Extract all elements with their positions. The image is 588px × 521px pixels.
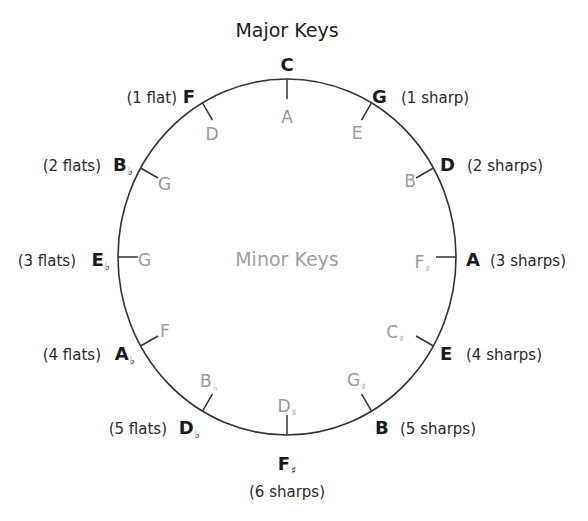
major-key-f-letter: F — [183, 86, 195, 107]
minor-key-f: F — [160, 321, 170, 341]
accidental-count-e-flat: (3 flats) — [18, 252, 76, 270]
tick-b-flat — [141, 168, 158, 178]
accidental-count-f-sharp: (6 sharps) — [249, 483, 325, 501]
major-key-a-flat-accidental: ♭ — [130, 354, 135, 367]
major-key-f-sharp: F♯ — [278, 453, 297, 477]
minor-key-a: A — [281, 107, 293, 127]
minor-keys-label: Minor Keys — [235, 248, 339, 270]
major-key-e-flat-accidental: ♭ — [105, 260, 110, 273]
minor-key-d-letter: D — [205, 124, 218, 144]
key-labels-group: CAG(1 sharp)ED(2 sharps)BA(3 sharps)F♯E(… — [18, 54, 566, 501]
accidental-count-b: (5 sharps) — [400, 420, 476, 438]
minor-key-d-sharp-letter: D — [278, 396, 291, 416]
accidental-count-g: (1 sharp) — [401, 89, 469, 107]
major-key-d: D — [440, 154, 455, 175]
minor-key-g-sharp-letter: G — [347, 370, 360, 390]
major-key-e-flat: E♭ — [92, 249, 111, 273]
major-key-a-letter: A — [466, 249, 480, 270]
major-key-d-flat: D♭ — [179, 417, 200, 441]
minor-key-d: D — [205, 124, 218, 144]
minor-key-b-flat-letter: B — [200, 371, 212, 391]
major-key-c-letter: C — [280, 54, 293, 75]
tick-e — [416, 336, 433, 346]
accidental-count-f: (1 flat) — [126, 89, 177, 107]
major-key-c: C — [280, 54, 293, 75]
major-key-f-sharp-letter: F — [278, 453, 290, 474]
minor-key-g-letter: G — [158, 174, 171, 194]
minor-key-c-sharp-accidental: ♯ — [399, 333, 404, 344]
minor-key-f-sharp-letter: F — [414, 252, 424, 272]
tick-b — [362, 394, 372, 411]
tick-f — [203, 103, 213, 120]
major-key-a-flat-letter: A — [115, 343, 129, 364]
major-key-a: A — [466, 249, 480, 270]
minor-key-e-letter: E — [352, 123, 363, 143]
tick-a-flat — [141, 336, 158, 346]
minor-key-c-sharp-letter: C — [386, 322, 398, 342]
major-key-e-letter: E — [440, 343, 452, 364]
major-key-d-flat-letter: D — [179, 417, 194, 438]
major-key-b-flat-letter: B — [113, 154, 127, 175]
major-key-f: F — [183, 86, 195, 107]
minor-key-b-flat: B♭ — [200, 371, 218, 393]
minor-key-g-sharp: G♯ — [347, 370, 366, 392]
minor-key-e: E — [352, 123, 363, 143]
accidental-count-d: (2 sharps) — [467, 157, 543, 175]
diagram-title: Major Keys — [235, 19, 338, 41]
minor-key-f-sharp: F♯ — [414, 252, 430, 274]
minor-key-g-sharp-accidental: ♯ — [361, 381, 366, 392]
minor-key-b-letter: B — [404, 171, 416, 191]
minor-key-d-sharp-accidental: ♯ — [292, 407, 297, 418]
tick-d — [416, 168, 433, 178]
major-key-d-letter: D — [440, 154, 455, 175]
minor-key-g: G — [138, 250, 151, 270]
major-key-b-flat-accidental: ♭ — [128, 165, 133, 178]
minor-key-b: B — [404, 171, 416, 191]
minor-key-g: G — [158, 174, 171, 194]
minor-key-a-letter: A — [281, 107, 293, 127]
major-key-f-sharp-accidental: ♯ — [291, 464, 296, 477]
major-key-d-flat-accidental: ♭ — [195, 428, 200, 441]
minor-key-f-letter: F — [160, 321, 170, 341]
minor-key-d-sharp: D♯ — [278, 396, 297, 418]
accidental-count-e: (4 sharps) — [466, 346, 542, 364]
minor-key-c-sharp: C♯ — [386, 322, 404, 344]
circle-of-fifths-diagram: Major Keys Minor Keys CAG(1 sharp)ED(2 s… — [0, 0, 588, 521]
minor-key-f-sharp-accidental: ♯ — [425, 263, 430, 274]
major-key-e: E — [440, 343, 452, 364]
major-key-b-letter: B — [375, 417, 389, 438]
minor-key-g-letter: G — [138, 250, 151, 270]
accidental-count-b-flat: (2 flats) — [43, 157, 101, 175]
major-key-g-letter: G — [372, 86, 387, 107]
major-key-b-flat: B♭ — [113, 154, 133, 178]
major-key-e-flat-letter: E — [92, 249, 104, 270]
minor-key-b-flat-accidental: ♭ — [213, 382, 218, 393]
major-key-a-flat: A♭ — [115, 343, 135, 367]
major-key-b: B — [375, 417, 389, 438]
tick-g — [362, 103, 372, 120]
accidental-count-d-flat: (5 flats) — [109, 420, 167, 438]
accidental-count-a: (3 sharps) — [490, 252, 566, 270]
major-key-g: G — [372, 86, 387, 107]
accidental-count-a-flat: (4 flats) — [43, 346, 101, 364]
tick-d-flat — [203, 394, 213, 411]
